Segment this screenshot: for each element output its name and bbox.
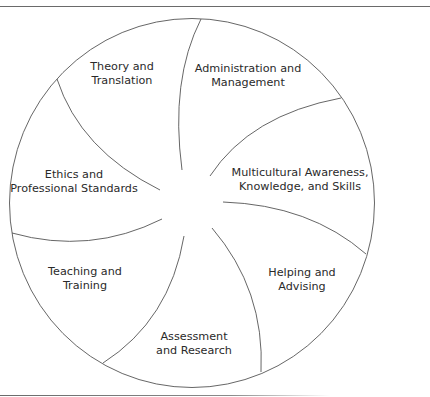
segment-label-line: Knowledge, and Skills [232,180,369,194]
divider-administration-multicultural [210,98,341,176]
segment-label-teaching: Teaching and Training [48,265,122,293]
segment-label-line: Training [48,279,122,293]
segment-label-line: Teaching and [48,265,122,279]
divider-multicultural-helping [223,202,366,254]
segment-label-multicultural: Multicultural Awareness, Knowledge, and … [232,166,369,194]
top-rule [0,6,430,7]
segment-label-line: Translation [90,74,153,88]
segment-label-line: Ethics and [10,168,138,182]
segment-label-ethics: Ethics and Professional Standards [10,168,138,196]
segment-label-line: Helping and [268,266,335,280]
segment-label-administration: Administration and Management [195,62,301,90]
competency-wheel-diagram: Theory and Translation Administration an… [0,0,430,397]
segment-label-line: and Research [156,344,232,358]
segment-label-line: Professional Standards [10,182,138,196]
segment-label-line: Multicultural Awareness, [232,166,369,180]
segment-label-assessment: Assessment and Research [156,330,232,358]
segment-label-theory: Theory and Translation [90,60,153,88]
segment-label-helping: Helping and Advising [268,266,335,294]
segment-label-line: Assessment [156,330,232,344]
divider-teaching-ethics [12,219,162,241]
segment-label-line: Management [195,76,301,90]
divider-theory-administration [179,19,201,170]
segment-label-line: Advising [268,280,335,294]
bottom-rule [0,395,330,396]
segment-label-line: Theory and [90,60,153,74]
segment-label-line: Administration and [195,62,301,76]
